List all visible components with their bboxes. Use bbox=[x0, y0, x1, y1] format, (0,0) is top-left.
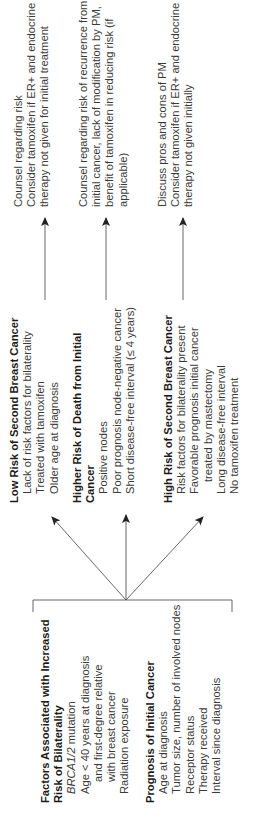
arrow-to-high-risk bbox=[126, 517, 203, 600]
arrow-to-low-risk bbox=[52, 517, 126, 600]
diagram-stage: Factors Associated with Increased Risk o… bbox=[0, 0, 257, 834]
connector-lines bbox=[0, 0, 257, 834]
bracket bbox=[33, 600, 232, 612]
